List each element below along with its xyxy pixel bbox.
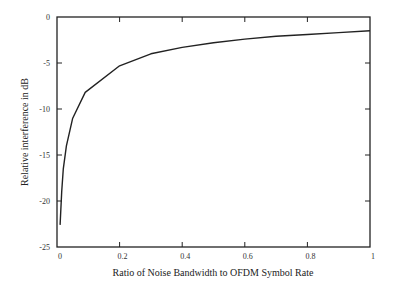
x-tick-label: 0.6 xyxy=(243,252,253,261)
x-tick-labels: 00.20.40.60.81 xyxy=(58,252,375,261)
x-axis-title: Ratio of Noise Bandwidth to OFDM Symbol … xyxy=(113,267,314,278)
y-tick-label: -5 xyxy=(43,59,50,68)
data-line xyxy=(60,31,370,225)
x-tick-label: 0 xyxy=(58,252,62,261)
x-tick-label: 0.2 xyxy=(118,252,128,261)
x-tick-label: 0.4 xyxy=(180,252,190,261)
y-tick-label: 0 xyxy=(46,13,50,22)
line-chart: 00.20.40.60.81 0-5-10-15-20-25 Ratio of … xyxy=(0,0,394,292)
y-tick-label: -20 xyxy=(39,197,50,206)
y-tick-label: -25 xyxy=(39,243,50,252)
x-tick-label: 0.8 xyxy=(305,252,315,261)
y-tick-label: -15 xyxy=(39,151,50,160)
plot-frame xyxy=(57,17,370,247)
y-tick-labels: 0-5-10-15-20-25 xyxy=(39,13,50,252)
y-tick-label: -10 xyxy=(39,105,50,114)
y-axis-title: Relative interference in dB xyxy=(19,78,30,186)
x-tick-label: 1 xyxy=(371,252,375,261)
axis-ticks xyxy=(57,17,370,247)
